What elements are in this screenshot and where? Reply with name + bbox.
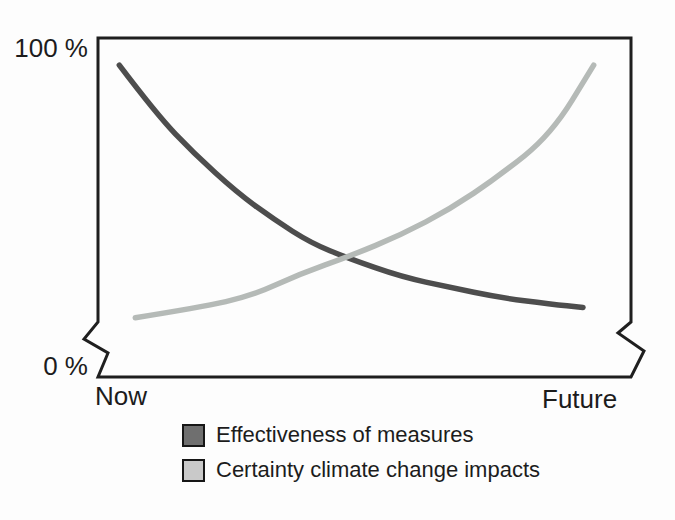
chart-legend: Effectiveness of measures Certainty clim… <box>182 423 540 493</box>
legend-swatch-light <box>182 459 205 482</box>
legend-item-effectiveness: Effectiveness of measures <box>182 423 540 447</box>
legend-swatch-dark <box>182 424 205 447</box>
y-axis-tick-100: 100 % <box>0 34 88 62</box>
x-axis-tick-now: Now <box>95 382 147 410</box>
legend-label-certainty: Certainty climate change impacts <box>216 458 540 482</box>
x-axis-tick-future: Future <box>542 385 617 413</box>
legend-label-effectiveness: Effectiveness of measures <box>216 423 474 447</box>
figure-page: 100 % 0 % Now Future Effectiveness of me… <box>0 0 675 520</box>
y-axis-tick-0: 0 % <box>0 352 88 380</box>
legend-item-certainty: Certainty climate change impacts <box>182 458 540 482</box>
